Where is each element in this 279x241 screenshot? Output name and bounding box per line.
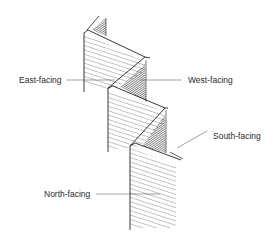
zigzag-wall-drawing	[0, 0, 279, 241]
top-shaded-face	[87, 16, 106, 36]
south-leader	[177, 131, 207, 148]
east-facing-label: East-facing	[19, 75, 62, 85]
north-facing-panel	[130, 143, 183, 230]
west-facing-label: West-facing	[188, 75, 233, 85]
north-facing-label: North-facing	[44, 189, 90, 199]
south-facing-label: South-facing	[213, 131, 261, 141]
